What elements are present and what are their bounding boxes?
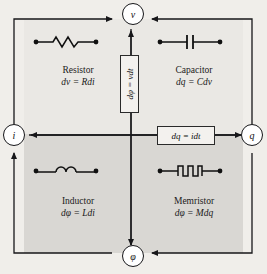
resistor-symbol: [33, 34, 99, 50]
label-memristor: Memristor dφ = Mdq: [152, 195, 236, 219]
node-voltage[interactable]: v: [122, 3, 144, 25]
node-voltage-label: v: [131, 9, 135, 20]
memristor-relationship-diagram: v i q φ Resistor dv = Rdi Capa: [0, 0, 267, 274]
inductor-equation: dφ = Ldi: [36, 207, 120, 219]
memristor-symbol: [157, 163, 223, 179]
resistor-name: Resistor: [36, 64, 120, 76]
node-flux[interactable]: φ: [122, 245, 144, 267]
node-current-label: i: [13, 130, 16, 141]
label-capacitor: Capacitor dq = Cdv: [152, 64, 236, 88]
node-charge-label: q: [250, 130, 255, 141]
relation-box-charge-current: dq = idt: [157, 126, 215, 145]
node-current[interactable]: i: [3, 124, 25, 146]
relation-charge-current-equation: dq = idt: [171, 131, 200, 141]
node-flux-label: φ: [130, 251, 136, 262]
capacitor-symbol: [157, 34, 223, 50]
inductor-symbol: [33, 163, 99, 179]
resistor-equation: dv = Rdi: [36, 76, 120, 88]
relation-flux-voltage-equation: dφ = vdt: [125, 68, 135, 99]
capacitor-name: Capacitor: [152, 64, 236, 76]
label-inductor: Inductor dφ = Ldi: [36, 195, 120, 219]
memristor-name: Memristor: [152, 195, 236, 207]
inductor-name: Inductor: [36, 195, 120, 207]
memristor-equation: dφ = Mdq: [152, 207, 236, 219]
label-resistor: Resistor dv = Rdi: [36, 64, 120, 88]
capacitor-equation: dq = Cdv: [152, 76, 236, 88]
node-charge[interactable]: q: [241, 124, 263, 146]
relation-box-flux-voltage: dφ = vdt: [120, 55, 139, 113]
